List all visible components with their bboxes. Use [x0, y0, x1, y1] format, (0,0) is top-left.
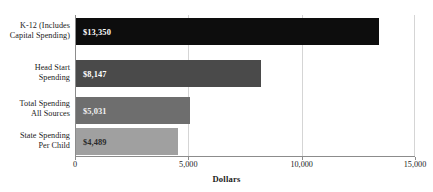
category-label-line: Total Spending: [0, 99, 70, 109]
bar-chart: K-12 (Includes Capital Spending) Head St…: [0, 0, 433, 192]
category-label-state-spending: State Spending Per Child: [0, 131, 70, 152]
category-label-line: Spending: [0, 73, 70, 83]
x-tick-mark: [415, 157, 416, 160]
category-label-line: Per Child: [0, 141, 70, 151]
x-tick-mark: [302, 157, 303, 160]
plot-area: $13,350 $8,147 $5,031 $4,489: [75, 15, 415, 157]
x-axis-line: [75, 156, 415, 157]
x-tick-label: 0: [73, 160, 77, 169]
category-label-k12: K-12 (Includes Capital Spending): [0, 21, 70, 42]
bar-head-start: $8,147: [76, 60, 261, 87]
category-label-line: Capital Spending): [0, 31, 70, 41]
x-tick-label: 10,000: [290, 160, 313, 169]
category-label-total-spending: Total Spending All Sources: [0, 99, 70, 120]
bar-value-label: $4,489: [83, 137, 107, 146]
category-axis-labels: K-12 (Includes Capital Spending) Head St…: [0, 0, 73, 192]
category-label-line: K-12 (Includes: [0, 21, 70, 31]
category-label-line: State Spending: [0, 131, 70, 141]
bar-value-label: $5,031: [83, 106, 107, 115]
category-label-line: All Sources: [0, 109, 70, 119]
x-tick-mark: [75, 157, 76, 160]
x-tick-label: 15,000: [404, 160, 427, 169]
plot-right-border: [414, 15, 415, 157]
category-label-head-start: Head Start Spending: [0, 63, 70, 84]
bar-state-spending: $4,489: [76, 128, 178, 155]
category-label-line: Head Start: [0, 63, 70, 73]
bar-value-label: $8,147: [83, 69, 107, 78]
x-axis-title-text: Dollars: [212, 174, 240, 184]
bar-k12: $13,350: [76, 18, 379, 45]
x-tick-label: 5,000: [179, 160, 197, 169]
bar-value-label: $13,350: [83, 27, 111, 36]
x-axis-title: Dollars: [0, 174, 433, 184]
x-tick-mark: [188, 157, 189, 160]
bar-total-spending: $5,031: [76, 97, 190, 124]
